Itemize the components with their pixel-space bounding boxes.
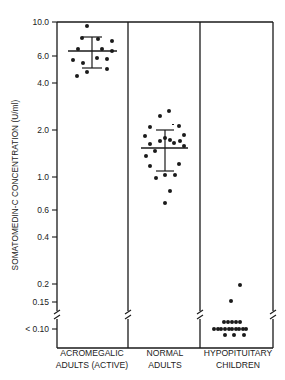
data-point [85, 70, 89, 74]
data-point [242, 333, 246, 337]
group-label-line: NORMAL [147, 348, 184, 358]
data-point [230, 327, 234, 331]
data-point [110, 39, 114, 43]
group-label-line: ACROMEGALIC [60, 348, 124, 358]
data-point [178, 139, 182, 143]
y-tick-label: 0.15 [32, 297, 49, 307]
data-point [168, 189, 172, 193]
data-point [85, 24, 89, 28]
y-axis-title: SOMATOMEDIN-C CONCENTRATION (U/ml) [11, 99, 20, 270]
y-tick-label: 2.0 [37, 125, 49, 135]
scatter-chart: 10.06.04.02.01.00.60.40.20.15< 0.10 SOMA… [0, 0, 285, 380]
axis-break-icon [125, 315, 131, 319]
data-point [153, 149, 157, 153]
data-point [173, 173, 177, 177]
data-point [163, 201, 167, 205]
group-label-line: ADULTS [148, 360, 182, 370]
data-point [143, 134, 147, 138]
data-point [148, 142, 152, 146]
y-tick-label: 0.2 [37, 279, 49, 289]
data-point [144, 154, 148, 158]
y-tick-label: 6.0 [37, 51, 49, 61]
data-point [238, 283, 242, 287]
speck [172, 124, 174, 125]
data-points [71, 24, 248, 337]
data-point [226, 320, 230, 324]
y-tick-label: 10.0 [32, 17, 49, 27]
y-tick-label: 0.6 [37, 205, 49, 215]
data-point [163, 173, 167, 177]
data-point [222, 320, 226, 324]
data-point [237, 327, 241, 331]
data-point [223, 327, 227, 331]
group-label-line: HYPOPITUITARY [204, 348, 273, 358]
y-axis-ticks: 10.06.04.02.01.00.60.40.20.15< 0.10 [25, 17, 57, 334]
data-point [238, 320, 242, 324]
y-tick-label: 0.4 [37, 232, 49, 242]
data-point [105, 67, 109, 71]
axis-break-icon [197, 315, 203, 319]
data-point [244, 327, 248, 331]
data-point [158, 139, 162, 143]
data-point [75, 74, 79, 78]
data-point [81, 61, 85, 65]
data-point [172, 141, 176, 145]
data-point [219, 327, 223, 331]
data-point [223, 333, 227, 337]
data-point [148, 164, 152, 168]
y-tick-label: < 0.10 [25, 324, 49, 334]
axis-break-icon [54, 315, 60, 319]
data-point [230, 320, 234, 324]
data-point [71, 58, 75, 62]
data-point [232, 333, 236, 337]
y-tick-label: 4.0 [37, 78, 49, 88]
group-label-line: CHILDREN [216, 360, 260, 370]
data-point [168, 138, 172, 142]
axis-break-icon [270, 315, 276, 319]
group-labels: ACROMEGALICADULTS (ACTIVE)NORMALADULTSHY… [56, 348, 273, 370]
y-tick-label: 1.0 [37, 172, 49, 182]
data-point [158, 114, 162, 118]
data-point [105, 57, 109, 61]
data-point [95, 56, 99, 60]
data-point [212, 327, 216, 331]
data-point [148, 125, 152, 129]
data-point [229, 299, 233, 303]
group-label-line: ADULTS (ACTIVE) [56, 360, 129, 370]
data-point [182, 133, 186, 137]
data-point [154, 176, 158, 180]
data-point [177, 124, 181, 128]
data-point [234, 320, 238, 324]
data-point [167, 109, 171, 113]
data-point [177, 162, 181, 166]
